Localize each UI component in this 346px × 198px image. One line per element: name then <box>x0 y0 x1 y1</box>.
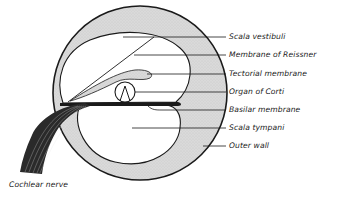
organ-of-corti-shape <box>115 82 135 102</box>
cochlea-diagram <box>0 0 346 198</box>
label-cochlear-nerve: Cochlear nerve <box>9 181 68 189</box>
label-outer-wall: Outer wall <box>229 142 269 150</box>
label-scala-tympani: Scala tympani <box>229 124 284 132</box>
label-scala-vestibuli: Scala vestibuli <box>229 33 285 41</box>
label-organ-of-corti: Organ of Corti <box>229 88 284 96</box>
label-tectorial-membrane: Tectorial membrane <box>229 70 307 78</box>
label-basilar-membrane: Basilar membrane <box>229 106 300 114</box>
label-membrane-of-reissner: Membrane of Reissner <box>229 51 316 59</box>
